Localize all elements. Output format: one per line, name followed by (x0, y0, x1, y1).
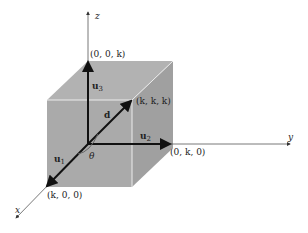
x-axis-label: x (15, 206, 20, 215)
u2-label: u2 (140, 132, 151, 143)
z-axis-label: z (95, 12, 100, 21)
u1-label: u1 (54, 155, 65, 166)
point-x-label: (k, 0, 0) (47, 191, 82, 200)
point-diag-label: (k, k, k) (136, 97, 171, 106)
point-y-label: (0, k, 0) (170, 148, 205, 157)
u3-label: u3 (92, 82, 103, 93)
point-z-label: (0, 0, k) (90, 50, 125, 59)
y-axis-label: y (288, 133, 293, 142)
d-label: d (104, 111, 110, 120)
theta-label: θ (89, 152, 94, 161)
